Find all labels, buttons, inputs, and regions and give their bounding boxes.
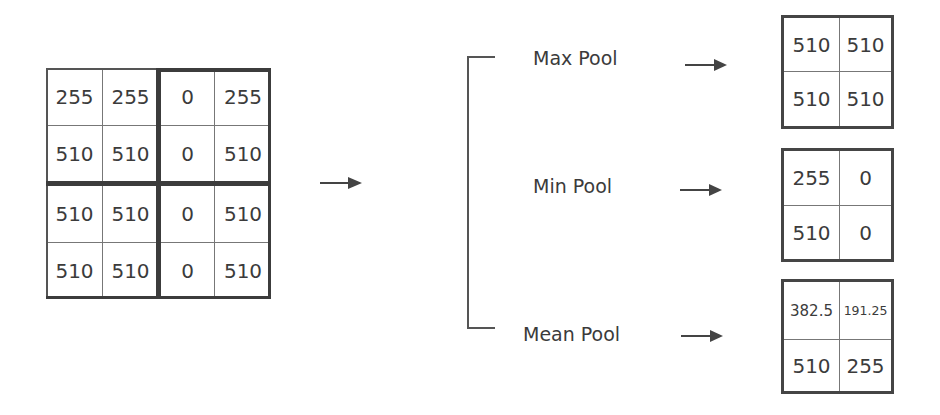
output-cell: 191.25	[840, 282, 891, 339]
input-cell: 510	[215, 185, 271, 242]
output-cell: 255	[784, 151, 839, 205]
op-label-min-pool: Min Pool	[533, 175, 612, 197]
input-cell: 0	[160, 68, 215, 125]
output-cell: 510	[840, 72, 891, 126]
op-label-max-pool: Max Pool	[533, 47, 618, 69]
input-cell: 0	[160, 242, 215, 299]
output-cell: 382.5	[784, 282, 839, 339]
min-pool-output: 255 0 510 0	[781, 148, 894, 262]
mean-pool-output: 382.5 191.25 510 255	[781, 279, 894, 394]
input-cell: 510	[103, 185, 158, 242]
right-arrow-icon	[680, 328, 726, 344]
output-cell: 255	[840, 340, 891, 391]
output-cell: 0	[840, 206, 891, 259]
input-cell: 255	[215, 68, 271, 125]
max-pool-output: 510 510 510 510	[781, 15, 894, 129]
op-label-mean-pool: Mean Pool	[523, 323, 620, 345]
input-cell: 510	[103, 125, 158, 182]
input-matrix: 255 255 0 255 510 510 0 510 510 510 0 51…	[46, 68, 271, 299]
input-cell: 510	[215, 125, 271, 182]
input-cell: 510	[215, 242, 271, 299]
input-cell: 0	[160, 185, 215, 242]
bracket	[462, 52, 502, 334]
quadrant-divider	[46, 181, 271, 186]
input-cell: 510	[46, 242, 103, 299]
quadrant-border	[160, 68, 271, 72]
right-arrow-icon	[679, 182, 725, 198]
input-cell: 510	[103, 242, 158, 299]
input-cell: 510	[46, 185, 103, 242]
output-cell: 510	[784, 340, 839, 391]
right-arrow-icon	[318, 174, 364, 192]
input-cell: 510	[46, 125, 103, 182]
output-cell: 0	[840, 151, 891, 205]
output-cell: 510	[784, 72, 839, 126]
output-cell: 510	[840, 18, 891, 71]
right-arrow-icon	[684, 57, 730, 73]
input-cell: 0	[160, 125, 215, 182]
input-cell: 255	[46, 68, 103, 125]
output-cell: 510	[784, 206, 839, 259]
output-cell: 510	[784, 18, 839, 71]
input-cell: 255	[103, 68, 158, 125]
